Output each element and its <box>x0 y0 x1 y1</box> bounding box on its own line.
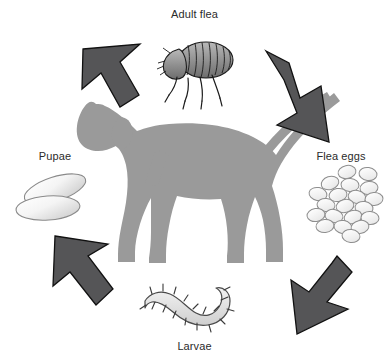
arrow-bottom-left <box>53 236 113 305</box>
flea-life-cycle-diagram: Adult flea Flea eggs Larvae Pupae <box>0 0 389 362</box>
adult-flea-illustration <box>157 42 233 109</box>
stage-label-larvae: Larvae <box>0 340 389 353</box>
footer-caption-sliver <box>0 356 389 362</box>
arrow-top-right <box>266 51 329 142</box>
arrow-top-left <box>82 44 140 107</box>
stage-label-adult-flea: Adult flea <box>0 8 389 21</box>
larva-illustration <box>140 284 234 332</box>
flea-eggs-illustration <box>306 164 383 244</box>
cycle-illustration <box>0 0 389 362</box>
stage-label-flea-eggs: Flea eggs <box>306 150 376 163</box>
arrow-bottom-right <box>291 256 352 334</box>
stage-label-pupae: Pupae <box>24 150 86 163</box>
pupae-illustration <box>15 168 89 223</box>
